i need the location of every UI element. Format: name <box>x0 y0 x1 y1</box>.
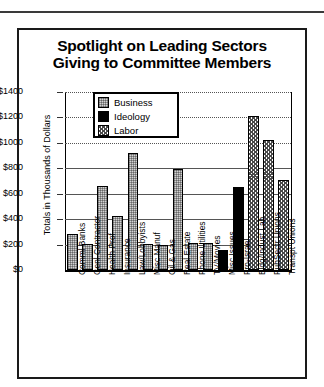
legend-item: Ideology <box>98 110 174 123</box>
x-tick-label: Oil & Gas <box>167 179 177 275</box>
y-tick-mark <box>57 117 63 118</box>
y-tick-mark <box>57 194 63 195</box>
legend-swatch <box>98 111 109 122</box>
x-tick-label: Genl Contractor <box>92 179 102 275</box>
legend-label: Business <box>114 97 153 108</box>
y-tick-mark <box>57 245 63 246</box>
x-tick-label: Comml Banks <box>77 179 87 275</box>
legend-label: Ideology <box>114 111 150 122</box>
chart-legend: BusinessIdeologyLabor <box>93 92 179 138</box>
legend-item: Labor <box>98 124 174 137</box>
y-tick-label: $400 <box>0 213 23 223</box>
y-tick-label: $1400 <box>0 86 23 96</box>
x-tick-label: Health Prof <box>107 179 117 275</box>
x-tick-label: PubSectr Unions <box>272 179 282 275</box>
y-tick-mark <box>57 92 63 93</box>
x-tick-label: Misc Issues <box>227 179 237 275</box>
y-tick-label: $0 <box>0 264 23 274</box>
y-tick-label: $1200 <box>0 111 23 121</box>
y-axis-title: Totals in Thousands of Dollars <box>42 100 52 250</box>
scan-artifact-top <box>0 0 324 9</box>
chart-figure: Spotlight on Leading Sectors Giving to C… <box>17 28 307 379</box>
y-tick-mark <box>57 143 63 144</box>
y-tick-mark <box>57 219 63 220</box>
x-tick-label: Bldg/Indust Lab <box>257 179 267 275</box>
y-tick-label: $800 <box>0 162 23 172</box>
y-tick-label: $1000 <box>0 137 23 147</box>
legend-item: Business <box>98 96 174 109</box>
x-tick-label: Transpt Unions <box>287 179 297 275</box>
y-tick-label: $200 <box>0 239 23 249</box>
y-tick-label: $600 <box>0 188 23 198</box>
y-tick-mark <box>57 168 63 169</box>
x-tick-label: Insurance <box>122 179 132 275</box>
x-tick-label: TV/Movies <box>212 179 222 275</box>
legend-swatch <box>98 97 109 108</box>
legend-swatch <box>98 125 109 136</box>
x-tick-label: Real Estate <box>182 179 192 275</box>
horizontal-rule-top <box>0 11 324 13</box>
x-tick-label: Phone Utilities <box>197 179 207 275</box>
chart-title: Spotlight on Leading Sectors Giving to C… <box>19 37 305 71</box>
x-tick-label: Pro-Israel <box>242 179 252 275</box>
chart-title-line-2: Giving to Committee Members <box>19 54 305 71</box>
legend-label: Labor <box>114 125 138 136</box>
x-tick-label: Law/Lobbyists <box>137 179 147 275</box>
x-tick-label: Misc Manuf <box>152 179 162 275</box>
chart-title-line-1: Spotlight on Leading Sectors <box>57 37 267 54</box>
